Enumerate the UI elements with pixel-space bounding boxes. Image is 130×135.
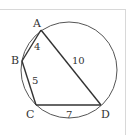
cyclic-quadrilateral-diagram: A B C D 4 5 7 10 [0, 0, 130, 135]
length-label-ad: 10 [72, 55, 85, 66]
length-label-ab: 4 [34, 41, 40, 52]
vertex-label-c: C [26, 108, 34, 121]
segment-ad [41, 30, 101, 105]
vertex-label-b: B [11, 54, 19, 67]
vertex-label-d: D [101, 108, 110, 121]
length-label-bc: 5 [32, 75, 38, 86]
length-label-cd: 7 [66, 109, 72, 120]
vertex-label-a: A [32, 17, 42, 30]
